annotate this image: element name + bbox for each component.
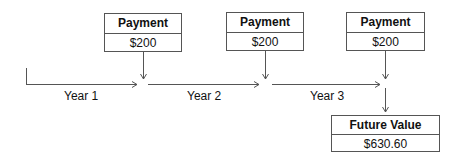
payment-box-1: Payment $200 [104, 13, 182, 52]
payment-amount: $200 [227, 33, 303, 51]
period-label-year-3: Year 3 [310, 89, 344, 103]
payment-amount: $200 [105, 34, 181, 52]
payment-title: Payment [227, 13, 303, 33]
future-value-amount: $630.60 [332, 135, 439, 153]
future-value-title: Future Value [332, 116, 439, 135]
payment-title: Payment [105, 14, 181, 34]
period-label-year-2: Year 2 [187, 89, 221, 103]
payment-amount: $200 [347, 33, 424, 51]
payment-box-2: Payment $200 [226, 12, 304, 51]
period-label-year-1: Year 1 [64, 89, 98, 103]
payment-box-3: Payment $200 [346, 12, 425, 51]
future-value-box: Future Value $630.60 [331, 115, 440, 152]
payment-title: Payment [347, 13, 424, 33]
